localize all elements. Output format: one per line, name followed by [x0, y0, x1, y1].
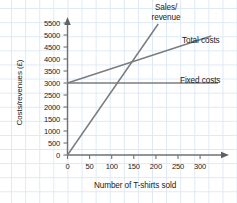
x-tick-label: 150: [128, 163, 140, 171]
series-label-sales-revenue-line1: Sales/: [138, 3, 194, 13]
y-axis-title: Costs/revenues (£): [15, 33, 24, 153]
x-tick-label: 0: [65, 163, 69, 171]
series-label-fixed-costs: Fixed costs: [180, 76, 220, 86]
x-tick-label: 200: [150, 163, 162, 171]
x-axis-tick-labels: 0 50 100 150 200 250 300: [0, 0, 237, 203]
x-tick-label: 100: [106, 163, 118, 171]
x-tick-label: 50: [86, 163, 94, 171]
series-label-total-costs: Total costs: [182, 36, 220, 46]
series-label-sales-revenue: Sales/ revenue: [138, 3, 194, 23]
x-tick-label: 250: [172, 163, 184, 171]
x-tick-label: 300: [194, 163, 206, 171]
series-label-sales-revenue-line2: revenue: [138, 13, 194, 23]
x-axis-title: Number of T-shirts sold: [45, 181, 225, 190]
